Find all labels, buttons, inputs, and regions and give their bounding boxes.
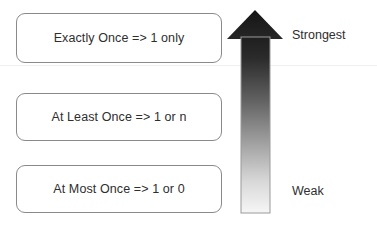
arrow-shaft <box>241 37 270 213</box>
scale-label-strongest: Strongest <box>292 28 346 42</box>
semantics-box-label: Exactly Once => 1 only <box>54 31 185 45</box>
scale-label-weak: Weak <box>292 184 324 198</box>
semantics-box-exactly-once: Exactly Once => 1 only <box>16 13 222 63</box>
semantics-box-at-least-once: At Least Once => 1 or n <box>16 93 222 141</box>
semantics-strength-diagram: Exactly Once => 1 only At Least Once => … <box>0 0 377 227</box>
semantics-box-label: At Most Once => 1 or 0 <box>53 182 184 196</box>
semantics-box-label: At Least Once => 1 or n <box>51 110 186 124</box>
strength-arrow <box>226 8 286 214</box>
strength-arrow-icon <box>226 8 286 214</box>
arrow-head <box>227 10 283 39</box>
scan-artifact-line <box>0 65 377 66</box>
semantics-box-at-most-once: At Most Once => 1 or 0 <box>16 165 222 213</box>
